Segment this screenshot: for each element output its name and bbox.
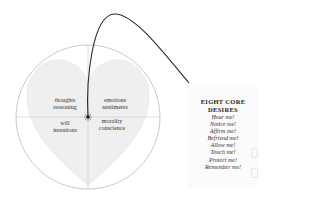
- label-thoughts-reasoning: thoughts reasoning: [45, 97, 85, 111]
- panel-title-line2: DESIRES: [188, 106, 258, 114]
- label-emotions: emotions: [95, 97, 135, 104]
- list-item: Notice me!: [188, 121, 258, 128]
- list-item: Touch me!: [188, 149, 258, 156]
- list-item: Befriend me!: [188, 135, 258, 142]
- label-will-intentions: will intentions: [45, 120, 85, 134]
- list-item: Protect me!: [188, 157, 258, 164]
- list-item: Hear me!: [188, 114, 258, 121]
- label-sentiments: sentiments: [95, 104, 135, 111]
- faint-mark-icon: [251, 148, 258, 158]
- label-will: will: [45, 120, 85, 127]
- panel-title-line1: EIGHT CORE: [188, 98, 258, 106]
- label-reasoning: reasoning: [45, 104, 85, 111]
- label-intentions: intentions: [45, 127, 85, 134]
- eight-core-desires-panel: EIGHT CORE DESIRES Hear me! Notice me! A…: [188, 84, 258, 187]
- desires-list: Hear me! Notice me! Affirm me! Befriend …: [188, 114, 258, 171]
- label-emotions-sentiments: emotions sentiments: [95, 97, 135, 111]
- center-star-icon: [84, 113, 92, 121]
- label-conscience: conscience: [92, 125, 132, 132]
- list-item: Allow me!: [188, 142, 258, 149]
- list-item: Remember me!: [188, 164, 258, 171]
- label-thoughts: thoughts: [45, 97, 85, 104]
- label-morality-conscience: morality conscience: [92, 118, 132, 132]
- label-morality: morality: [92, 118, 132, 125]
- panel-title: EIGHT CORE DESIRES: [188, 98, 258, 114]
- faint-mark-icon: [251, 168, 258, 178]
- list-item: Affirm me!: [188, 128, 258, 135]
